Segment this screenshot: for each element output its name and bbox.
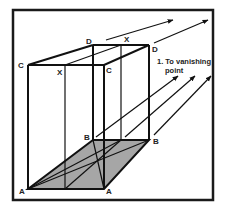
top-receding-edges	[28, 45, 149, 65]
label-a-right: A	[106, 187, 112, 196]
label-x-back: X	[124, 35, 130, 44]
label-b-left: B	[84, 133, 90, 142]
label-c-left: C	[18, 61, 24, 70]
arrow-top-1	[106, 20, 173, 40]
label-d-left: D	[86, 37, 92, 46]
label-x-front: X	[57, 68, 63, 77]
label-c-right: C	[106, 66, 112, 75]
arrow-mid-3	[154, 76, 211, 135]
label-a-left: A	[19, 187, 25, 196]
arrow-mid-2	[125, 76, 195, 137]
label-d-right: D	[152, 45, 158, 54]
annotation-line-1: 1. To vanishing	[157, 57, 211, 66]
back-face-edges	[93, 45, 149, 140]
perspective-diagram: C X C D X D B B A A 1. To vanishing poin…	[0, 0, 226, 211]
arrow-mid-1	[96, 76, 178, 137]
label-b-right: B	[153, 137, 159, 146]
annotation-line-2: point	[165, 66, 184, 75]
vanishing-point-arrows	[96, 20, 211, 137]
